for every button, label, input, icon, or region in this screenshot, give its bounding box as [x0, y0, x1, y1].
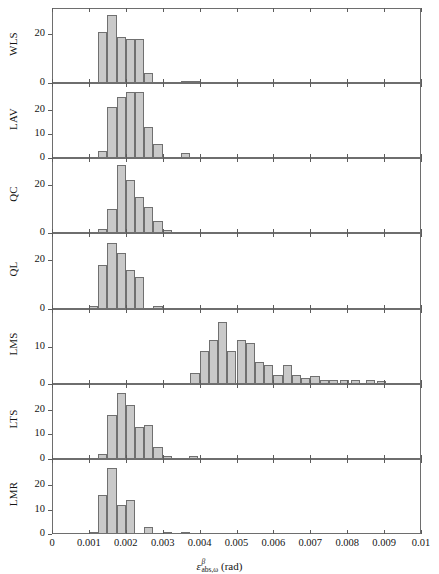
- y-tick-mark: [48, 534, 52, 535]
- x-tick-mark: [163, 530, 164, 534]
- histogram-bar: [153, 144, 162, 159]
- x-tick-mark: [126, 459, 127, 463]
- plot-area: [52, 384, 421, 459]
- panel-label-wls: WLS: [7, 9, 19, 79]
- x-tick-mark: [347, 8, 348, 12]
- x-tick-mark: [273, 83, 274, 87]
- y-tick-label: 20: [18, 403, 45, 414]
- x-tick-mark: [310, 83, 311, 87]
- x-tick-mark: [237, 309, 238, 313]
- y-tick-label: 20: [18, 253, 45, 264]
- x-tick-mark: [126, 83, 127, 87]
- x-tick-mark: [200, 384, 201, 388]
- y-tick-label: 20: [18, 103, 45, 114]
- x-tick-mark: [200, 83, 201, 87]
- y-tick-label: 20: [18, 478, 45, 489]
- histogram-bar: [135, 197, 144, 234]
- histogram-bar: [98, 265, 107, 309]
- histogram-bar: [153, 447, 162, 459]
- histogram-bar: [107, 107, 116, 158]
- panel-lms: [52, 309, 421, 384]
- panel-label-lav: LAV: [7, 84, 19, 154]
- x-tick-mark: [347, 83, 348, 87]
- histogram-bar: [126, 92, 135, 158]
- histogram-bar: [237, 340, 246, 384]
- x-tick-mark: [310, 233, 311, 237]
- panel-label-lms: LMS: [7, 309, 19, 379]
- y-tick-label: 0: [18, 377, 45, 388]
- plot-area: [52, 233, 421, 308]
- histogram-bar: [126, 405, 135, 459]
- x-tick-mark: [273, 233, 274, 237]
- histogram-bar: [98, 495, 107, 534]
- y-tick-label: 0: [18, 76, 45, 87]
- x-tick-mark: [384, 158, 385, 162]
- y-tick-label: 10: [18, 340, 45, 351]
- x-tick-mark: [237, 83, 238, 87]
- x-tick-mark: [52, 8, 53, 12]
- plot-area: [52, 8, 421, 83]
- x-axis-sub-sup: βabs,ω: [201, 558, 218, 573]
- y-tick-mark: [48, 434, 52, 435]
- histogram-bar: [218, 322, 227, 384]
- x-tick-mark: [347, 158, 348, 162]
- x-tick-mark: [421, 384, 422, 388]
- x-tick-mark: [126, 530, 127, 534]
- histogram-bar: [246, 343, 255, 383]
- x-tick-mark: [273, 309, 274, 313]
- x-tick-mark: [237, 233, 238, 237]
- x-tick-mark: [126, 384, 127, 388]
- histogram-bar: [89, 532, 98, 534]
- x-tick-mark: [384, 8, 385, 12]
- x-tick-mark: [200, 158, 201, 162]
- x-tick-mark: [89, 459, 90, 463]
- x-tick-mark: [273, 459, 274, 463]
- x-tick-mark: [52, 459, 53, 463]
- x-tick-mark: [384, 459, 385, 463]
- x-tick-mark: [384, 384, 385, 388]
- histogram-bar: [98, 151, 107, 158]
- histogram-bar: [107, 209, 116, 233]
- histogram-bar: [117, 393, 126, 459]
- panel-wls: [52, 8, 421, 83]
- panel-qc: [52, 158, 421, 233]
- panel-label-ql: QL: [7, 234, 19, 304]
- x-tick-mark: [52, 384, 53, 388]
- histogram-bar: [98, 32, 107, 83]
- histogram-bar: [273, 375, 282, 384]
- histogram-bar: [107, 415, 116, 459]
- x-tick-mark: [421, 309, 422, 313]
- x-tick-mark: [163, 309, 164, 313]
- x-tick-mark: [200, 233, 201, 237]
- histogram-bar: [144, 73, 153, 83]
- x-tick-mark: [347, 530, 348, 534]
- histogram-bar: [126, 270, 135, 309]
- x-tick-mark: [52, 530, 53, 534]
- x-tick-mark: [237, 8, 238, 12]
- x-tick-mark: [163, 158, 164, 162]
- x-tick-mark: [163, 8, 164, 12]
- x-tick-mark: [200, 309, 201, 313]
- y-tick-label: 10: [18, 427, 45, 438]
- x-tick-mark: [52, 233, 53, 237]
- y-tick-mark: [48, 510, 52, 511]
- x-tick-mark: [237, 158, 238, 162]
- histogram-bar: [153, 221, 162, 233]
- x-tick-mark: [200, 459, 201, 463]
- histogram-bar: [135, 39, 144, 83]
- x-tick-mark: [126, 233, 127, 237]
- y-tick-mark: [48, 34, 52, 35]
- x-tick-mark: [126, 8, 127, 12]
- x-tick-mark: [347, 309, 348, 313]
- histogram-bar: [292, 375, 301, 384]
- histogram-bar: [135, 92, 144, 158]
- x-tick-mark: [89, 158, 90, 162]
- x-tick-mark: [126, 158, 127, 162]
- panel-lav: [52, 83, 421, 158]
- histogram-bar: [190, 373, 199, 384]
- histogram-bar: [107, 15, 116, 83]
- histogram-bar: [135, 277, 144, 309]
- histogram-bar: [135, 427, 144, 459]
- histogram-bar: [310, 376, 319, 383]
- histogram-bar: [264, 365, 273, 383]
